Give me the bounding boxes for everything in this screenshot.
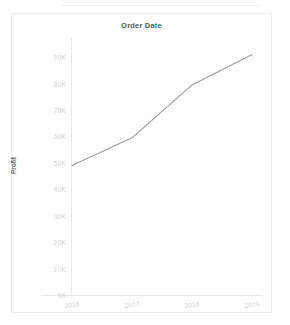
chart-card: Order Date Profit 0K10K20K30K40K50K60K70… bbox=[11, 13, 272, 313]
top-divider-rule bbox=[62, 5, 262, 6]
line-series-svg bbox=[12, 14, 273, 314]
profit-line-series bbox=[72, 55, 252, 166]
